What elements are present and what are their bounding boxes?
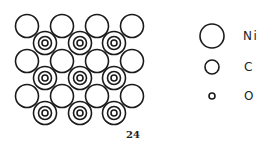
co-molecule-icon [103, 67, 126, 90]
legend-label-o: O [244, 89, 255, 103]
legend: Ni C O [200, 24, 258, 103]
co-outer-ring [69, 32, 92, 55]
figure-number: 24 [126, 129, 140, 140]
co-on-nickel-lattice-diagram: Ni C O 24 [0, 0, 277, 144]
ni-atom-icon [16, 50, 39, 73]
legend-item-c: C [205, 60, 254, 74]
ni-atom-icon [86, 85, 109, 108]
co-outer-ring [69, 67, 92, 90]
ni-atom-icon [16, 85, 39, 108]
ni-atom-icon [121, 50, 144, 73]
co-outer-ring [103, 102, 126, 125]
co-outer-ring [34, 67, 57, 90]
carbon-monoxide-adsorbate-layer [34, 32, 126, 125]
nickel-atom-layer [16, 15, 144, 108]
o-atom-legend-icon [209, 93, 215, 99]
co-outer-ring [34, 32, 57, 55]
co-molecule-icon [103, 32, 126, 55]
legend-item-o: O [209, 89, 255, 103]
ni-atom-icon [86, 15, 109, 38]
ni-atom-icon [51, 50, 74, 73]
co-molecule-icon [34, 67, 57, 90]
ni-atom-icon [51, 15, 74, 38]
co-outer-ring [103, 67, 126, 90]
co-molecule-icon [69, 32, 92, 55]
co-molecule-icon [34, 32, 57, 55]
co-outer-ring [103, 32, 126, 55]
ni-atom-icon [51, 85, 74, 108]
co-molecule-icon [69, 67, 92, 90]
legend-label-ni: Ni [243, 29, 258, 43]
ni-atom-icon [86, 50, 109, 73]
co-molecule-icon [34, 102, 57, 125]
co-outer-ring [69, 102, 92, 125]
legend-item-ni: Ni [200, 24, 258, 48]
ni-atom-icon [121, 85, 144, 108]
ni-atom-icon [121, 15, 144, 38]
ni-atom-icon [16, 15, 39, 38]
ni-atom-legend-icon [200, 24, 224, 48]
c-atom-legend-icon [205, 60, 219, 74]
co-molecule-icon [103, 102, 126, 125]
legend-label-c: C [244, 60, 254, 74]
co-molecule-icon [69, 102, 92, 125]
co-outer-ring [34, 102, 57, 125]
